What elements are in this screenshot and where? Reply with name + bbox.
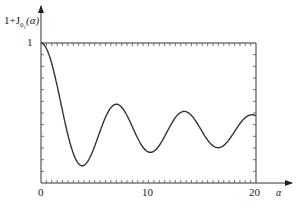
y-tick-1: 1 bbox=[27, 36, 33, 48]
x-tick-10: 10 bbox=[142, 186, 153, 198]
x-axis-label: α bbox=[276, 187, 281, 198]
x-tick-20: 20 bbox=[249, 186, 260, 198]
ylabel-arg: (α) bbox=[26, 14, 39, 26]
y-axis-label: 1+J01(α) bbox=[4, 14, 39, 30]
tick-marks bbox=[41, 43, 256, 183]
data-curve bbox=[41, 43, 256, 166]
chart-plot bbox=[0, 0, 299, 209]
x-tick-0: 0 bbox=[38, 186, 44, 198]
ylabel-main: 1+J bbox=[4, 14, 20, 26]
